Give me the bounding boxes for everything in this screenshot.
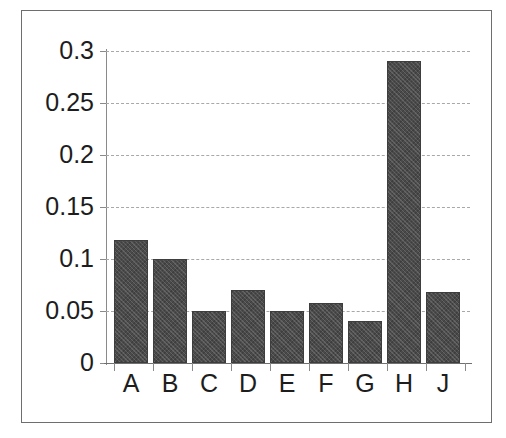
bar-G — [348, 321, 382, 363]
x-axis-tick-mark — [465, 363, 466, 371]
bar-J — [426, 292, 460, 363]
x-axis-tick-mark — [426, 363, 427, 371]
bar-H — [387, 61, 421, 363]
x-axis-tick-mark — [387, 363, 388, 371]
x-tick-label-A: A — [114, 371, 148, 396]
x-axis-tick-mark — [114, 363, 115, 371]
x-tick-label-F: F — [309, 371, 343, 396]
x-tick-label-D: D — [231, 371, 265, 396]
x-axis-line — [104, 363, 472, 364]
y-axis-tick-labels: 0.3 0.25 0.2 0.15 0.1 0.05 0 — [0, 0, 94, 438]
x-tick-label-H: H — [387, 371, 421, 396]
x-tick-label-G: G — [348, 371, 382, 396]
y-tick-label-0: 0 — [80, 350, 94, 375]
bar-D — [231, 290, 265, 363]
bar-B — [153, 259, 187, 363]
bar-F — [309, 303, 343, 363]
y-tick-label-0.15: 0.15 — [45, 194, 94, 219]
y-tick-label-0.1: 0.1 — [59, 246, 94, 271]
x-tick-label-B: B — [153, 371, 187, 396]
x-axis-tick-mark — [270, 363, 271, 371]
x-tick-label-J: J — [426, 371, 460, 396]
bar-chart-figure: 0.3 0.25 0.2 0.15 0.1 0.05 0 — [0, 0, 506, 438]
x-axis-tick-mark — [348, 363, 349, 371]
x-axis-tick-mark — [309, 363, 310, 371]
y-tick-label-0.3: 0.3 — [59, 38, 94, 63]
y-tick-label-0.2: 0.2 — [59, 142, 94, 167]
plot-area — [106, 51, 470, 363]
bar-C — [192, 311, 226, 363]
bar-A — [114, 240, 148, 363]
x-axis-tick-mark — [153, 363, 154, 371]
x-axis-tick-mark — [231, 363, 232, 371]
gridline-0.3 — [106, 51, 470, 52]
x-tick-label-E: E — [270, 371, 304, 396]
x-axis-tick-mark — [192, 363, 193, 371]
bar-E — [270, 311, 304, 363]
y-tick-label-0.05: 0.05 — [45, 298, 94, 323]
y-tick-label-0.25: 0.25 — [45, 90, 94, 115]
x-tick-label-C: C — [192, 371, 226, 396]
